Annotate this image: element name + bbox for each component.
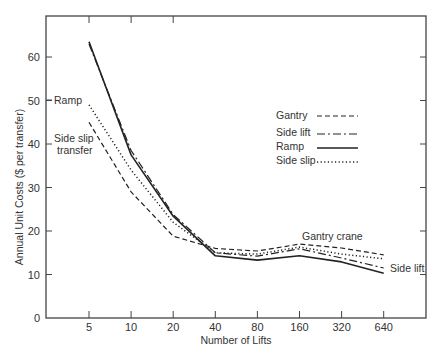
legend-label-ramp: Ramp: [276, 140, 304, 152]
annotation-side-slip-line1: Side slip: [54, 132, 94, 144]
x-tick-label: 5: [86, 321, 92, 333]
y-tick-label: 20: [28, 225, 40, 237]
y-tick-label: 50: [28, 95, 40, 107]
y-tick-label: 60: [28, 51, 40, 63]
annotation-side-lift: Side lift: [390, 262, 425, 274]
legend-label-side-lift: Side lift: [276, 126, 311, 138]
x-tick-label: 160: [290, 321, 308, 333]
y-tick-label: 30: [28, 182, 40, 194]
y-tick-label: 10: [28, 269, 40, 281]
annotation-ramp: Ramp: [54, 94, 82, 106]
y-axis-ticks: 0102030405060: [28, 51, 426, 324]
x-tick-label: 40: [209, 321, 221, 333]
legend-label-side-slip: Side slip: [276, 154, 316, 166]
y-tick-label: 0: [34, 312, 40, 324]
x-axis-title: Number of Lifts: [200, 334, 271, 346]
legend: Gantry Side lift Ramp Side slip: [276, 109, 358, 166]
annotation-side-slip-line2: transfer: [57, 144, 93, 156]
x-tick-label: 320: [332, 321, 350, 333]
legend-label-gantry: Gantry: [276, 109, 308, 121]
y-axis-title: Annual Unit Costs ($ per transfer): [13, 109, 25, 265]
x-axis-ticks: 510204080160320640: [86, 16, 393, 333]
y-tick-label: 40: [28, 138, 40, 150]
x-tick-label: 20: [167, 321, 179, 333]
annotation-gantry-crane: Gantry crane: [302, 230, 363, 242]
x-tick-label: 10: [125, 321, 137, 333]
x-tick-label: 80: [251, 321, 263, 333]
plot-frame: [46, 16, 426, 318]
line-chart: 0102030405060 510204080160320640 Number …: [0, 0, 437, 354]
x-tick-label: 640: [375, 321, 393, 333]
